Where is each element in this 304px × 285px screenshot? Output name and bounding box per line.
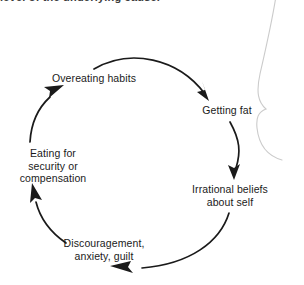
node-eating-for-security-or-compensation: Eating for security or compensation	[6, 147, 100, 185]
page-edge-curve-artifact	[257, 0, 282, 160]
arrow-discouragement-to-eating-for	[30, 183, 66, 243]
node-irrational-beliefs-about-self: Irrational beliefs about self	[178, 183, 282, 208]
arrow-eating-for-to-overeating	[30, 85, 64, 142]
node-overeating-habits: Overeating habits	[38, 72, 150, 85]
arrow-getting-fat-to-irrational	[228, 122, 240, 180]
node-getting-fat: Getting fat	[185, 104, 269, 117]
node-discouragement-anxiety-guilt: Discouragement, anxiety, guilt	[42, 237, 166, 262]
diagram-page: level of the underlying cause.	[0, 0, 304, 285]
